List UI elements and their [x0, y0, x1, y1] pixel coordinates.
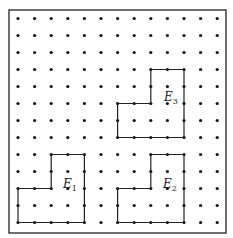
grid-dot — [199, 51, 202, 54]
grid-dot — [149, 204, 152, 207]
grid-dot — [99, 34, 102, 37]
grid-dot — [16, 34, 19, 37]
grid-dot — [83, 51, 86, 54]
grid-dot — [99, 102, 102, 105]
label-e3: E3 — [163, 90, 178, 106]
grid-dot — [99, 204, 102, 207]
grid-dot — [133, 119, 136, 122]
grid-dot — [50, 17, 53, 20]
grid-dot — [50, 85, 53, 88]
grid-dot — [116, 17, 119, 20]
grid-dot — [99, 187, 102, 190]
grid-dot — [16, 136, 19, 139]
grid-dot — [216, 170, 219, 173]
grid-dot — [83, 102, 86, 105]
shapes — [18, 70, 184, 223]
grid-dot — [99, 136, 102, 139]
grid-dot — [99, 153, 102, 156]
grid-dot — [116, 34, 119, 37]
grid-dot — [116, 153, 119, 156]
dot-grid-figure: E1E2E3 — [0, 0, 233, 238]
grid-dot — [16, 170, 19, 173]
grid-dot — [149, 51, 152, 54]
grid-dot — [16, 17, 19, 20]
grid-dot — [216, 17, 219, 20]
grid-dot — [66, 102, 69, 105]
grid-dot — [99, 170, 102, 173]
grid-dot — [50, 119, 53, 122]
grid-dot — [16, 102, 19, 105]
grid-dot — [66, 17, 69, 20]
grid-dot — [216, 153, 219, 156]
grid-dot — [216, 119, 219, 122]
grid-dot — [66, 34, 69, 37]
grid-dot — [83, 136, 86, 139]
grid-dot — [182, 17, 185, 20]
grid-dot — [166, 204, 169, 207]
grid-dot — [99, 68, 102, 71]
grid-dot — [50, 204, 53, 207]
grid-dot — [66, 68, 69, 71]
grid-dot — [216, 85, 219, 88]
grid-dot — [199, 221, 202, 224]
grid-dot — [66, 204, 69, 207]
grid-dot — [133, 85, 136, 88]
grid-dot — [199, 85, 202, 88]
grid-dot — [33, 119, 36, 122]
grid-dot — [33, 17, 36, 20]
grid-dot — [83, 68, 86, 71]
grid-dot — [133, 34, 136, 37]
grid-dot — [33, 51, 36, 54]
grid-dot — [33, 153, 36, 156]
grid-dot — [50, 34, 53, 37]
grid-dot — [83, 85, 86, 88]
grid-dot — [50, 51, 53, 54]
grid-dot — [116, 51, 119, 54]
label-e2: E2 — [162, 177, 177, 193]
grid-dot — [216, 204, 219, 207]
grid-dot — [116, 68, 119, 71]
grid-dot — [199, 136, 202, 139]
grid-dot — [33, 136, 36, 139]
grid-dot — [50, 102, 53, 105]
grid-dot — [133, 17, 136, 20]
grid-dot — [216, 136, 219, 139]
grid-dot — [133, 204, 136, 207]
grid-dot — [16, 68, 19, 71]
grid-dot — [99, 119, 102, 122]
grid-dot — [216, 34, 219, 37]
grid-dot — [199, 34, 202, 37]
grid-dot — [33, 68, 36, 71]
grid-dot — [83, 34, 86, 37]
grid-dot — [216, 51, 219, 54]
grid-dot — [166, 170, 169, 173]
grid-dot — [66, 51, 69, 54]
grid-dot — [199, 119, 202, 122]
grid-dot — [166, 85, 169, 88]
grid-dot — [199, 102, 202, 105]
grid-dot — [199, 17, 202, 20]
grid-dot — [16, 85, 19, 88]
grid-dot — [66, 136, 69, 139]
grid-dot — [33, 170, 36, 173]
grid-dot — [99, 85, 102, 88]
grid-dot — [83, 17, 86, 20]
grid-dot — [182, 51, 185, 54]
grid-dot — [83, 119, 86, 122]
grid-dot — [166, 34, 169, 37]
grid-dot — [99, 17, 102, 20]
grid-dot — [133, 170, 136, 173]
grid-dot — [133, 153, 136, 156]
grid-dot — [33, 204, 36, 207]
grid-dot — [66, 170, 69, 173]
grid-dot — [133, 68, 136, 71]
grid-dot — [116, 170, 119, 173]
grid-dot — [199, 68, 202, 71]
grid-dot — [199, 187, 202, 190]
grid-dot — [99, 221, 102, 224]
grid-dot — [66, 119, 69, 122]
grid-dot — [33, 34, 36, 37]
grid-dot — [33, 85, 36, 88]
grid-dot — [66, 85, 69, 88]
grid-dot — [16, 51, 19, 54]
